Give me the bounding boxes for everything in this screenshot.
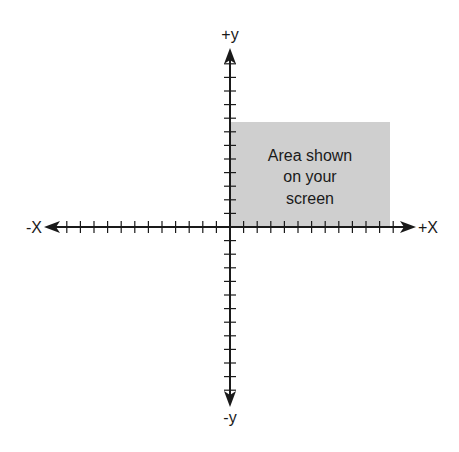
- neg-y-label: -y: [223, 409, 236, 426]
- pos-y-label: +y: [221, 26, 238, 43]
- neg-x-label: -X: [26, 219, 42, 236]
- coordinate-plane-diagram: Area shown on your screen +y -y -X +X: [0, 0, 459, 452]
- area-label-line-3: screen: [286, 190, 334, 207]
- area-label-line-2: on your: [283, 168, 337, 185]
- area-label-line-1: Area shown: [268, 147, 353, 164]
- pos-x-label: +X: [418, 219, 438, 236]
